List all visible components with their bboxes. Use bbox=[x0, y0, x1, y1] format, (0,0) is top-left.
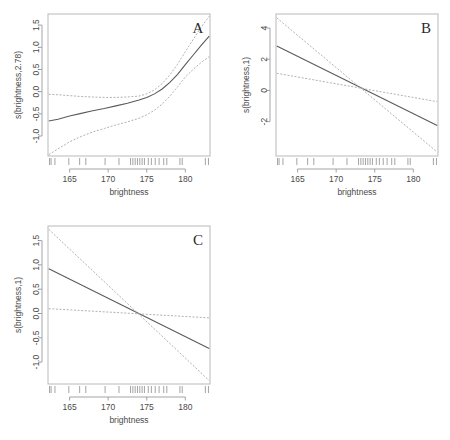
x-tick-label: 180 bbox=[178, 174, 192, 184]
panel-letter: B bbox=[421, 20, 431, 36]
y-tick-label: 4 bbox=[259, 25, 269, 30]
x-tick-label: 165 bbox=[63, 174, 77, 184]
y-tick-label: -0.5 bbox=[31, 106, 41, 121]
x-tick-label: 165 bbox=[291, 174, 305, 184]
y-tick-label: 0 bbox=[259, 88, 269, 93]
y-axis-title: s(brightness,2.78) bbox=[13, 51, 23, 119]
y-tick-label: -1.0 bbox=[31, 355, 41, 370]
y-tick-label: 1.0 bbox=[31, 41, 41, 53]
y-axis-title: s(brightness,1) bbox=[13, 277, 23, 333]
y-tick-label: 1.5 bbox=[31, 234, 41, 246]
series-fit bbox=[49, 36, 209, 121]
y-tick-label: 2 bbox=[259, 57, 269, 62]
plot-area-b: 165170175180brightness-2024s(brightness,… bbox=[228, 0, 450, 212]
plot-frame bbox=[48, 226, 210, 384]
panel-a: 165170175180brightness-1.0-0.50.00.51.01… bbox=[0, 0, 228, 212]
x-tick-label: 170 bbox=[329, 174, 343, 184]
y-tick-label: -1.0 bbox=[31, 128, 41, 143]
y-tick-label: 1.5 bbox=[31, 19, 41, 31]
x-tick-label: 175 bbox=[368, 174, 382, 184]
series-lower-ci bbox=[277, 18, 437, 152]
series-fit bbox=[277, 46, 437, 126]
panel-b: 165170175180brightness-2024s(brightness,… bbox=[228, 0, 450, 212]
x-tick-label: 175 bbox=[140, 402, 154, 412]
series-lower-ci bbox=[49, 57, 209, 155]
y-tick-label: 0.5 bbox=[31, 283, 41, 295]
series-lower-ci bbox=[49, 229, 209, 380]
x-axis-title: brightness bbox=[109, 415, 148, 425]
series-upper-ci bbox=[49, 16, 209, 97]
y-tick-label: 0.0 bbox=[31, 307, 41, 319]
y-tick-label: -0.5 bbox=[31, 330, 41, 345]
series-upper-ci bbox=[277, 73, 437, 101]
x-axis-title: brightness bbox=[337, 187, 376, 197]
panel-c: 165170175180brightness-1.0-0.50.00.51.01… bbox=[0, 212, 228, 440]
y-tick-label: 0.0 bbox=[31, 85, 41, 97]
panel-letter: C bbox=[193, 232, 203, 248]
x-tick-label: 170 bbox=[101, 174, 115, 184]
x-tick-label: 170 bbox=[101, 402, 115, 412]
plot-frame bbox=[48, 14, 210, 156]
series-upper-ci bbox=[49, 309, 209, 318]
y-tick-label: -2 bbox=[259, 118, 269, 126]
y-tick-label: 0.5 bbox=[31, 63, 41, 75]
panel-letter: A bbox=[193, 20, 204, 36]
y-tick-label: 1.0 bbox=[31, 259, 41, 271]
x-tick-label: 180 bbox=[178, 402, 192, 412]
x-tick-label: 180 bbox=[406, 174, 420, 184]
x-axis-title: brightness bbox=[109, 187, 148, 197]
x-tick-label: 175 bbox=[140, 174, 154, 184]
series-fit bbox=[49, 269, 209, 349]
x-tick-label: 165 bbox=[63, 402, 77, 412]
plot-area-c: 165170175180brightness-1.0-0.50.00.51.01… bbox=[0, 212, 228, 440]
plot-area-a: 165170175180brightness-1.0-0.50.00.51.01… bbox=[0, 0, 228, 212]
y-axis-title: s(brightness,1) bbox=[241, 57, 251, 113]
